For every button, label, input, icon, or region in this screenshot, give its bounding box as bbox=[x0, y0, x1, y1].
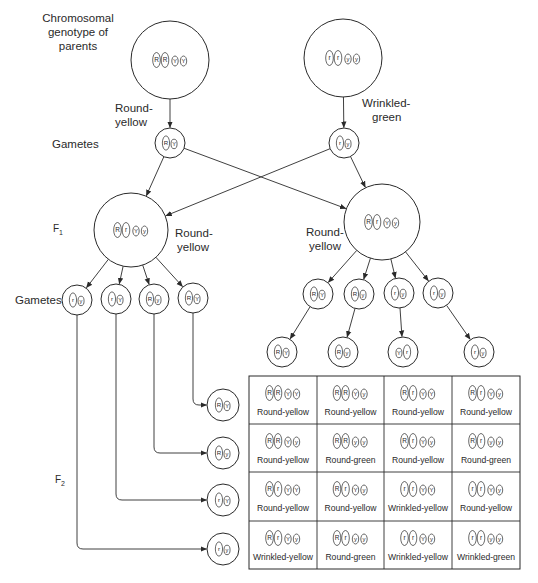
svg-text:R: R bbox=[402, 389, 407, 396]
svg-text:r: r bbox=[111, 295, 113, 302]
f1-left-gamete: Ry bbox=[139, 284, 169, 314]
svg-text:r: r bbox=[403, 485, 406, 492]
svg-text:r: r bbox=[471, 485, 474, 492]
svg-text:Y: Y bbox=[286, 439, 290, 445]
arrow-gamete-to-column bbox=[347, 308, 355, 337]
punnett-cell: rrYYWrinkled-yellow bbox=[388, 482, 449, 514]
svg-text:R: R bbox=[276, 389, 281, 396]
parent-gamete-left: RY bbox=[155, 128, 185, 158]
svg-text:Y: Y bbox=[172, 141, 176, 147]
svg-text:y: y bbox=[490, 536, 493, 542]
svg-text:Y: Y bbox=[353, 487, 357, 493]
arrow-f1-to-gamete bbox=[86, 259, 108, 287]
svg-text:R: R bbox=[163, 56, 168, 63]
svg-text:Y: Y bbox=[421, 536, 425, 542]
svg-text:y: y bbox=[347, 56, 350, 62]
punnett-cell: RrYYRound-yellow bbox=[392, 386, 445, 418]
punnett-cell: RrYyRound-yellow bbox=[324, 482, 377, 514]
punnett-cell: RryyRound-green bbox=[461, 434, 511, 466]
svg-text:R: R bbox=[217, 449, 222, 456]
svg-text:R: R bbox=[366, 218, 371, 225]
svg-text:y: y bbox=[354, 536, 357, 542]
svg-text:R: R bbox=[164, 139, 169, 146]
f1-right-phenotype: Round- yellow bbox=[306, 225, 344, 253]
punnett-cell: RrYyRound-yellow bbox=[392, 434, 445, 466]
f1-right-gamete: ry bbox=[423, 278, 453, 308]
punnett-cell: RRyyRound-green bbox=[325, 434, 375, 466]
punnett-column-gamete: ry bbox=[464, 337, 494, 367]
punnett-cell-phenotype: Round-green bbox=[461, 455, 511, 465]
punnett-cell: rrYyWrinkled-yellow bbox=[388, 531, 449, 563]
svg-text:Y: Y bbox=[397, 350, 401, 356]
svg-text:y: y bbox=[402, 291, 405, 297]
svg-text:Y: Y bbox=[284, 350, 288, 356]
svg-text:R: R bbox=[335, 389, 340, 396]
svg-text:R: R bbox=[335, 437, 340, 444]
svg-text:y: y bbox=[394, 220, 397, 226]
svg-text:R: R bbox=[217, 401, 222, 408]
svg-text:Y: Y bbox=[118, 297, 122, 303]
svg-text:r: r bbox=[412, 485, 415, 492]
svg-text:Y: Y bbox=[225, 403, 229, 409]
svg-text:r: r bbox=[412, 437, 415, 444]
punnett-column-gamete: Yr bbox=[388, 337, 418, 367]
arrow-gamete-to-f1 bbox=[166, 149, 330, 216]
svg-text:r: r bbox=[344, 534, 347, 541]
punnett-cell: rrYyRound-yellow bbox=[460, 482, 513, 514]
svg-text:R: R bbox=[402, 437, 407, 444]
svg-text:Y: Y bbox=[353, 391, 357, 397]
phenotype-line2: yellow bbox=[306, 239, 344, 253]
svg-text:R: R bbox=[343, 437, 348, 444]
svg-text:y: y bbox=[355, 56, 358, 62]
svg-text:Y: Y bbox=[421, 391, 425, 397]
parent-left-phenotype: Round- yellow bbox=[115, 101, 153, 129]
f1-right-gamete: RY bbox=[303, 279, 333, 309]
svg-text:R: R bbox=[337, 348, 342, 355]
f1-subscript: 1 bbox=[59, 229, 63, 236]
svg-text:r: r bbox=[480, 389, 483, 396]
svg-text:r: r bbox=[72, 296, 74, 303]
gametes-mid-label: Gametes bbox=[15, 293, 62, 307]
punnett-cell-phenotype: Round-yellow bbox=[392, 455, 445, 465]
arrow-f1-to-gamete bbox=[143, 265, 149, 284]
punnett-cell: RryyRound-green bbox=[325, 531, 375, 563]
svg-text:y: y bbox=[295, 439, 298, 445]
svg-text:R: R bbox=[154, 56, 159, 63]
svg-text:R: R bbox=[470, 389, 475, 396]
svg-text:R: R bbox=[343, 389, 348, 396]
svg-text:R: R bbox=[335, 534, 340, 541]
svg-text:y: y bbox=[295, 536, 298, 542]
svg-text:R: R bbox=[470, 437, 475, 444]
svg-text:r: r bbox=[480, 534, 483, 541]
svg-text:R: R bbox=[276, 348, 281, 355]
svg-text:r: r bbox=[403, 534, 406, 541]
svg-text:Y: Y bbox=[286, 487, 290, 493]
svg-text:y: y bbox=[347, 141, 350, 147]
punnett-cell-phenotype: Round-yellow bbox=[324, 407, 377, 417]
svg-text:r: r bbox=[277, 534, 280, 541]
svg-text:r: r bbox=[406, 348, 408, 355]
svg-text:Y: Y bbox=[286, 536, 290, 542]
svg-text:Y: Y bbox=[134, 228, 138, 234]
svg-text:y: y bbox=[498, 439, 501, 445]
arrow-f1-to-gamete bbox=[328, 250, 356, 282]
svg-text:y: y bbox=[157, 297, 160, 303]
svg-text:y: y bbox=[430, 439, 433, 445]
svg-text:y: y bbox=[498, 536, 501, 542]
svg-text:R: R bbox=[335, 485, 340, 492]
svg-text:r: r bbox=[474, 348, 476, 355]
punnett-cell-phenotype: Round-yellow bbox=[324, 503, 377, 513]
punnett-cell: rryyWrinkled-green bbox=[457, 531, 515, 563]
phenotype-line2: yellow bbox=[175, 240, 213, 254]
f1-left-gamete: RY bbox=[178, 283, 208, 313]
svg-text:y: y bbox=[354, 439, 357, 445]
f1-cell-right: RrYy bbox=[344, 184, 420, 260]
f1-left-gamete: rY bbox=[101, 284, 131, 314]
phenotype-line2: yellow bbox=[115, 115, 153, 129]
punnett-cell: RrYYRound-yellow bbox=[257, 482, 310, 514]
svg-text:Y: Y bbox=[429, 391, 433, 397]
svg-text:y: y bbox=[226, 547, 229, 553]
punnett-row-gamete: RY bbox=[207, 389, 239, 421]
arrow-f1-to-gamete bbox=[406, 252, 429, 281]
svg-text:Y: Y bbox=[173, 58, 177, 64]
